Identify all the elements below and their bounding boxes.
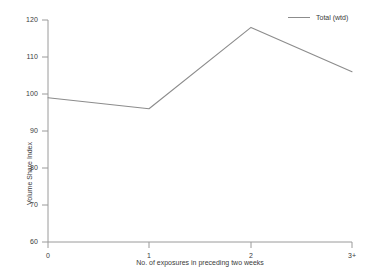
y-tick-label-120: 120 — [14, 16, 38, 23]
x-tick-label-3plus: 3+ — [339, 252, 365, 259]
legend: Total (wtd) — [288, 14, 348, 21]
y-axis-label-wrap: Volume Share Index — [14, 60, 28, 200]
x-tick-label-1: 1 — [136, 252, 162, 259]
legend-line-swatch — [288, 17, 310, 18]
x-tick-label-2: 2 — [238, 252, 264, 259]
line-chart: 120 110 100 90 80 70 60 0 1 2 3+ Volume … — [0, 0, 376, 279]
x-axis-label: No. of exposures in preceding two weeks — [48, 259, 352, 266]
series-line-total-wtd — [48, 27, 352, 108]
y-tick-label-60: 60 — [14, 238, 38, 245]
x-tick-label-0: 0 — [35, 252, 61, 259]
plot-area — [0, 0, 376, 279]
y-tick-label-110: 110 — [14, 53, 38, 60]
y-axis-label: Volume Share Index — [26, 124, 33, 224]
legend-label-total-wtd: Total (wtd) — [316, 14, 348, 21]
